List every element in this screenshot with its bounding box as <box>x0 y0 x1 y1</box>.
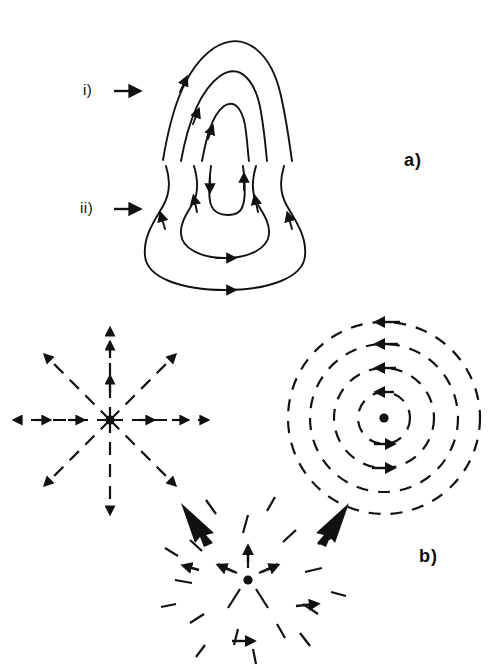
spiral-arrowhead-nw <box>220 566 234 572</box>
dash-m-8 <box>175 580 192 583</box>
spoke-se <box>256 589 268 608</box>
dash-o-9 <box>165 548 178 556</box>
field-line-diagram <box>0 0 494 669</box>
row-ii-label: ii) <box>80 199 93 216</box>
dash-m-7 <box>190 614 204 623</box>
spiral-arrowhead-w <box>185 566 199 570</box>
loop-outer <box>145 166 305 290</box>
spoke-sw <box>228 589 240 608</box>
ray-ne <box>110 356 174 420</box>
dash-m-3 <box>305 568 322 572</box>
spiral-arrowhead-ne <box>262 566 276 572</box>
spiral-arrowhead-e <box>296 604 316 606</box>
arch-middle <box>181 71 267 161</box>
reconnection-field-lines <box>145 166 305 290</box>
dash-m-2 <box>283 530 296 542</box>
ray-se <box>110 420 174 484</box>
outer-loop-arrowhead-left <box>161 215 165 229</box>
row-i-label: i) <box>83 81 92 98</box>
azimuthal-field <box>288 322 480 514</box>
spiral-arrowheads <box>185 548 316 641</box>
dash-m-1 <box>243 515 248 533</box>
panel-a <box>114 41 305 290</box>
dash-o-6 <box>253 649 256 664</box>
dash-m-5 <box>277 624 285 638</box>
spiral-field-center-dot <box>243 575 252 584</box>
dash-o-2 <box>267 497 275 511</box>
cusp-loop <box>209 166 245 215</box>
dash-o-5 <box>300 633 310 646</box>
azimuthal-field-center-dot <box>379 413 388 422</box>
dash-m-6 <box>234 629 238 645</box>
outer-loop-arrowhead-right <box>288 215 292 229</box>
dash-o-1 <box>206 500 216 514</box>
arch-inner <box>202 104 249 161</box>
panel-b <box>16 322 480 664</box>
ray-nw <box>46 356 110 420</box>
panel-b-label: b) <box>419 546 438 567</box>
dash-o-4 <box>331 592 346 596</box>
panel-a-label: a) <box>404 150 422 171</box>
left-combine-arrow <box>181 503 214 547</box>
radial-field <box>16 330 206 512</box>
arch-field-lines <box>163 41 292 161</box>
dash-o-8 <box>161 604 176 607</box>
left-block-arrow-shape <box>181 503 214 547</box>
radial-field-center-dot <box>105 415 114 424</box>
ray-sw <box>46 420 110 484</box>
arch-outer <box>163 41 292 161</box>
right-block-arrow-shape <box>316 503 349 547</box>
loop-inner <box>181 166 269 258</box>
right-combine-arrow <box>316 503 349 547</box>
dash-o-7 <box>196 645 205 657</box>
arch-outer-arrowhead <box>180 79 186 92</box>
inner-loop-arrowhead-left <box>194 198 197 212</box>
